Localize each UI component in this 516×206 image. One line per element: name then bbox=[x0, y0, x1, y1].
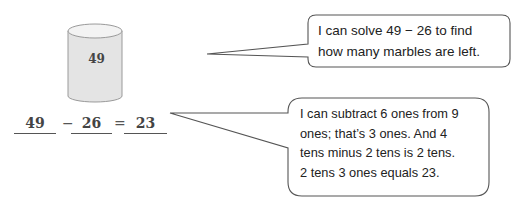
bubble-2-line-2: ones; that’s 3 ones. And 4 bbox=[300, 124, 486, 144]
subtrahend-blank: 26 bbox=[71, 114, 112, 134]
bubble-1-line-2: how many marbles are left. bbox=[318, 41, 508, 62]
equation: 49 − 26 = 23 bbox=[14, 114, 168, 136]
speech-bubble-2-text: I can subtract 6 ones from 9 ones; that’… bbox=[300, 104, 486, 182]
bubble-1-line-1: I can solve 49 − 26 to find bbox=[318, 20, 508, 41]
minuend-blank: 49 bbox=[14, 114, 56, 134]
bubble-2-line-4: 2 tens 3 ones equals 23. bbox=[300, 163, 486, 183]
bubble-2-line-1: I can subtract 6 ones from 9 bbox=[300, 104, 486, 124]
difference-blank: 23 bbox=[124, 114, 167, 134]
bubble-2-line-3: tens minus 2 tens is 2 tens. bbox=[300, 143, 486, 163]
jar-label: 49 bbox=[88, 52, 105, 66]
speech-bubble-1-text: I can solve 49 − 26 to find how many mar… bbox=[318, 20, 508, 62]
worksheet-figure: 49 49 − 26 = 23 I can solve 49 − 26 to f… bbox=[0, 0, 516, 206]
